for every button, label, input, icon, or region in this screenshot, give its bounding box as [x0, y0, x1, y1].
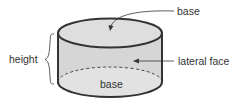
lateral-face-label: lateral face [178, 55, 230, 67]
top-base-label: base [177, 5, 200, 17]
bottom-base-label: base [100, 78, 123, 90]
cylinder-diagram: base lateral face base height [0, 0, 241, 104]
height-label: height [9, 53, 38, 65]
top-base-shape [58, 19, 162, 48]
height-brace-icon [45, 34, 54, 84]
